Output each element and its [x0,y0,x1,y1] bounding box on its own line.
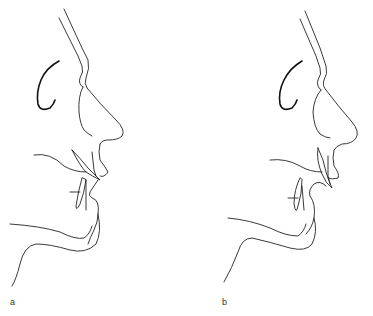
nasal-bridge-line-inner [59,18,83,87]
lower-incisor [294,178,302,211]
panel-a: a [0,0,186,316]
profile-drawing-b [186,0,373,316]
panel-b: b [186,0,373,316]
palate-line [270,160,322,172]
lower-lip [88,180,98,244]
nasal-bridge-line-inner [300,19,321,90]
lower-lip [306,182,326,234]
panel-label-b: b [222,297,227,307]
lower-incisor [76,178,86,209]
neck-line-upper [12,214,100,286]
ear-curve [280,61,303,109]
nose-outline [87,88,123,144]
nose-nostril [313,90,330,138]
nose-outline [326,90,357,150]
nasal-bridge-line-outer [64,9,89,88]
lower-incisor-root [302,186,304,210]
chin-line [10,224,92,238]
ear-curve [37,61,59,109]
upper-lip [99,144,108,177]
panel-label-a: a [10,297,15,307]
upper-lip [328,150,339,179]
nose-nostril [79,87,92,136]
nasal-bridge-line-outer [305,11,327,90]
profile-drawing-a [0,0,186,316]
chin-line [228,218,306,236]
